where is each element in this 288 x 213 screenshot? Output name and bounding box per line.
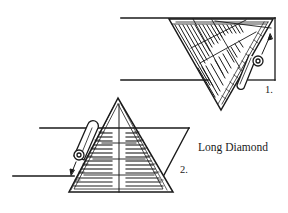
step-1-number: 1.	[265, 84, 273, 95]
diagram-canvas	[0, 0, 288, 213]
diagram-caption: Long Diamond	[198, 141, 268, 153]
step-1-hatch	[175, 25, 243, 97]
step-2-figure	[13, 98, 189, 192]
step-2-hatch-right	[126, 133, 163, 186]
long-diamond-diagram: 1. 2. Long Diamond	[0, 0, 288, 213]
step-1-figure	[121, 18, 275, 110]
step-2-arrow-icon	[70, 162, 76, 175]
step-2-number: 2.	[180, 164, 188, 175]
step-1-pin-tool	[237, 55, 263, 89]
